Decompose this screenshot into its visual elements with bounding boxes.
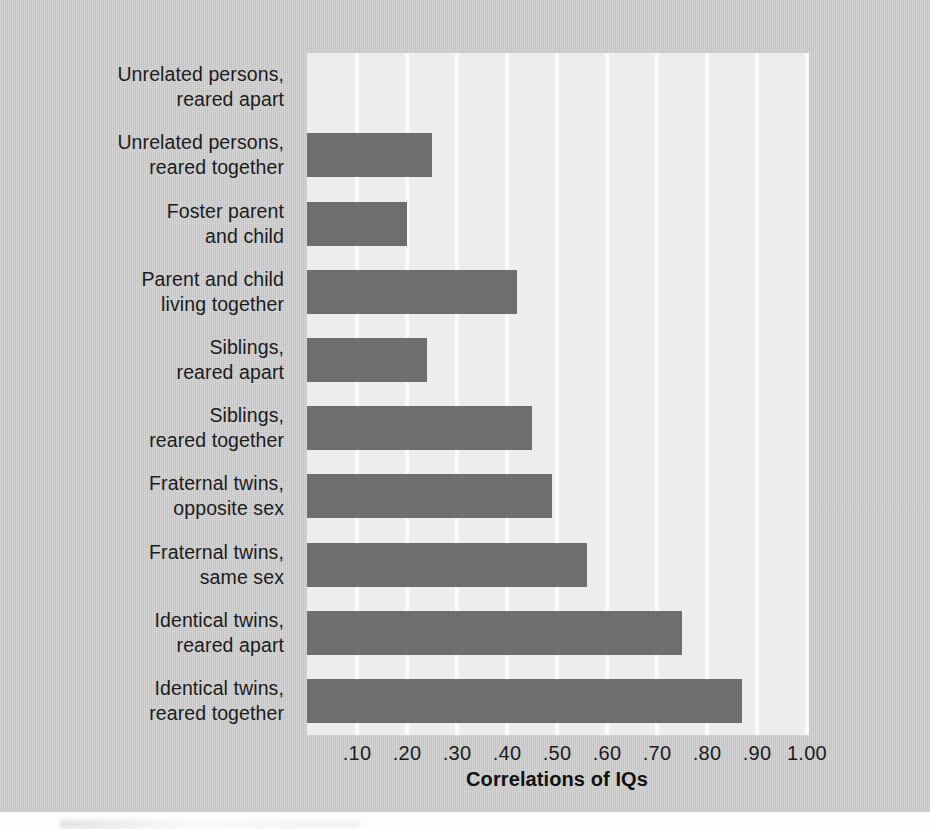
bar bbox=[307, 133, 432, 177]
x-axis-title: Correlations of IQs bbox=[307, 768, 807, 791]
bar-row bbox=[307, 202, 807, 246]
category-label: Siblings, reared apart bbox=[177, 335, 284, 385]
bar-row bbox=[307, 543, 807, 587]
category-label: Fraternal twins, same sex bbox=[149, 540, 284, 590]
bar bbox=[307, 202, 407, 246]
bar bbox=[307, 679, 742, 723]
category-label: Fraternal twins, opposite sex bbox=[149, 471, 284, 521]
category-label: Parent and child living together bbox=[141, 267, 284, 317]
bar-row bbox=[307, 270, 807, 314]
category-axis: Unrelated persons, reared apartUnrelated… bbox=[10, 53, 298, 735]
category-label: Identical twins, reared together bbox=[149, 676, 284, 726]
bar-row bbox=[307, 679, 807, 723]
bar-row bbox=[307, 611, 807, 655]
bar bbox=[307, 406, 532, 450]
bar-row bbox=[307, 133, 807, 177]
bar-row bbox=[307, 338, 807, 382]
bar-row bbox=[307, 65, 807, 109]
x-tick-label: 1.00 bbox=[777, 740, 837, 766]
bar bbox=[307, 338, 427, 382]
bar-row bbox=[307, 474, 807, 518]
page-bleed bbox=[0, 812, 930, 829]
category-label: Unrelated persons, reared together bbox=[117, 130, 284, 180]
bar bbox=[307, 611, 682, 655]
figure-panel: Unrelated persons, reared apartUnrelated… bbox=[0, 0, 930, 812]
x-axis-tick-labels: .10.20.30.40.50.60.70.80.901.00 bbox=[307, 740, 867, 770]
bar bbox=[307, 543, 587, 587]
page-bleed-smudge bbox=[60, 820, 360, 829]
category-label: Siblings, reared together bbox=[149, 403, 284, 453]
plot-area bbox=[307, 53, 807, 735]
category-label: Identical twins, reared apart bbox=[155, 608, 285, 658]
bar bbox=[307, 474, 552, 518]
category-label: Unrelated persons, reared apart bbox=[117, 62, 284, 112]
bar-row bbox=[307, 406, 807, 450]
category-label: Foster parent and child bbox=[167, 199, 284, 249]
bar bbox=[307, 270, 517, 314]
